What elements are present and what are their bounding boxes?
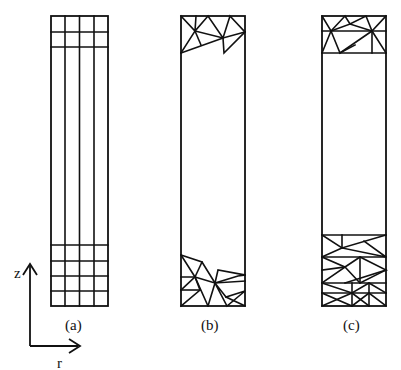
panel-b-mesh	[181, 16, 245, 306]
z-axis-label: z	[14, 265, 21, 281]
r-axis-label: r	[57, 355, 62, 370]
mesh-figure: z r (a) (b) (c)	[0, 0, 401, 370]
panel-a-label: (a)	[65, 317, 82, 334]
panel-c-label: (c)	[343, 317, 360, 334]
panel-a-mesh	[51, 16, 108, 306]
panel-b-label: (b)	[201, 317, 219, 334]
panel-c-mesh	[322, 16, 386, 306]
